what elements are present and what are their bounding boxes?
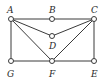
edge-a-f [11, 19, 52, 61]
node-a [9, 17, 14, 22]
label-a: A [6, 5, 14, 15]
graph-diagram: A B C D G F E [0, 0, 103, 82]
label-d: D [48, 41, 56, 51]
node-f [50, 59, 55, 64]
node-g [9, 59, 14, 64]
label-f: F [48, 69, 56, 79]
node-d [50, 34, 55, 39]
edges [11, 19, 94, 61]
label-e: E [90, 69, 98, 79]
node-e [92, 59, 97, 64]
edge-a-d [11, 19, 52, 36]
label-b: B [48, 5, 56, 15]
label-g: G [7, 69, 14, 79]
node-b [50, 17, 55, 22]
node-c [92, 17, 97, 22]
edge-d-c [52, 19, 94, 36]
label-c: C [91, 5, 98, 15]
edge-c-f [52, 19, 94, 61]
